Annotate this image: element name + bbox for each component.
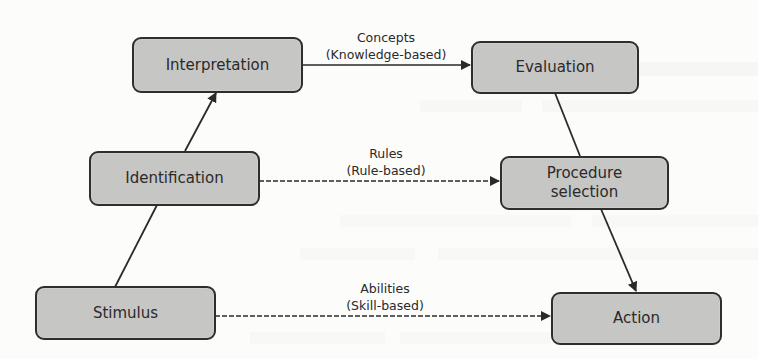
edge-identification-interpretation: [185, 93, 216, 151]
node-interpretation: Interpretation: [132, 37, 303, 93]
node-evaluation-label: Evaluation: [515, 58, 594, 77]
node-procedure-selection: Procedure selection: [500, 156, 669, 210]
node-identification-label: Identification: [125, 169, 223, 188]
node-identification: Identification: [89, 151, 260, 206]
node-procedure-selection-label: Procedure selection: [547, 164, 622, 202]
edge-label-concepts: Concepts (Knowledge-based): [326, 29, 447, 63]
diagram-canvas: Concepts (Knowledge-based) Rules (Rule-b…: [0, 0, 758, 359]
edge-label-rules-line2: (Rule-based): [346, 162, 425, 179]
edge-procedure-action: [601, 209, 636, 291]
node-action-label: Action: [613, 309, 660, 328]
edge-label-rules: Rules (Rule-based): [346, 145, 425, 179]
edge-label-abilities-line1: Abilities: [346, 280, 424, 297]
node-stimulus-label: Stimulus: [93, 304, 158, 323]
edge-label-rules-line1: Rules: [346, 145, 425, 162]
node-action: Action: [551, 292, 722, 345]
edge-label-abilities-line2: (Skill-based): [346, 297, 424, 314]
edge-label-abilities: Abilities (Skill-based): [346, 280, 424, 314]
edge-label-concepts-line1: Concepts: [326, 29, 447, 46]
node-interpretation-label: Interpretation: [166, 56, 270, 75]
edge-stimulus-identification: [115, 205, 157, 287]
node-evaluation: Evaluation: [471, 41, 639, 94]
edge-label-concepts-line2: (Knowledge-based): [326, 46, 447, 63]
node-stimulus: Stimulus: [35, 286, 216, 340]
edge-evaluation-procedure: [555, 93, 580, 156]
